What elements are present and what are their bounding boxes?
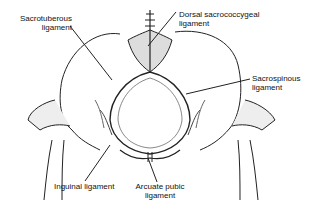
label-line: Dorsal sacrococcygeal [179, 10, 259, 19]
label-line: ligament [179, 19, 259, 28]
label-inguinal-ligament: Inguinal ligament [54, 182, 114, 191]
right-ilium [175, 31, 241, 150]
pelvic-inlet [110, 72, 190, 154]
label-arcuate-pubic-ligament: Arcuate pubic ligament [132, 182, 188, 200]
right-femur [232, 100, 275, 130]
label-line: ligament [252, 83, 300, 92]
label-line: ligament [132, 191, 188, 200]
label-sacrospinous-ligament: Sacrospinous ligament [252, 74, 300, 92]
label-line: Inguinal ligament [54, 182, 114, 191]
pelvis-diagram: Sacrotuberous ligament Dorsal sacrococcy… [0, 0, 313, 213]
label-dorsal-sacrococcygeal-ligament: Dorsal sacrococcygeal ligament [179, 10, 259, 28]
label-sacrotuberous-ligament: Sacrotuberous ligament [16, 14, 72, 32]
left-femur [28, 100, 70, 130]
leader-inguinal [85, 145, 110, 181]
label-line: Sacrotuberous [16, 14, 72, 23]
label-line: Arcuate pubic [132, 182, 188, 191]
label-line: Sacrospinous [252, 74, 300, 83]
label-line: ligament [16, 23, 72, 32]
